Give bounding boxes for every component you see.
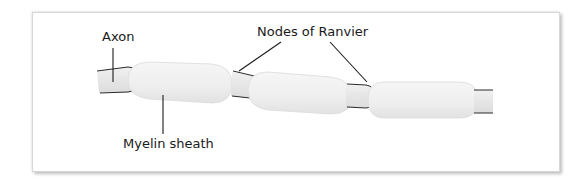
axon-label: Axon bbox=[102, 29, 134, 44]
myelin-sheath-3 bbox=[368, 82, 478, 118]
myelin-sheath-2 bbox=[248, 72, 352, 114]
nodes-leader-line-1 bbox=[239, 42, 281, 71]
axon-right-segment bbox=[474, 90, 493, 113]
myelin-sheath-1 bbox=[128, 62, 232, 103]
nodes-leader-line-2 bbox=[330, 42, 367, 82]
nodes-of-ranvier-label: Nodes of Ranvier bbox=[257, 24, 368, 39]
myelin-sheath-label: Myelin sheath bbox=[123, 136, 214, 151]
